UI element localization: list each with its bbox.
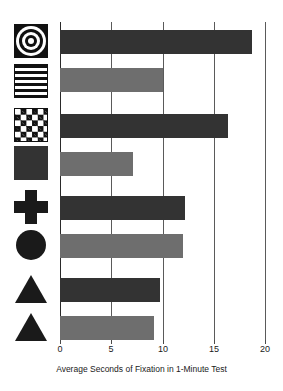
checkerboard-icon: [14, 108, 48, 142]
solid-square-icon: [14, 146, 48, 180]
stimulus-icon-column: [0, 0, 60, 391]
bar-circle: [60, 234, 183, 258]
tick-label-0: 0: [48, 344, 72, 354]
bar-checkerboard: [60, 114, 228, 138]
tick-label-10: 10: [151, 344, 175, 354]
bar-horizontal-stripes: [60, 68, 163, 92]
bar-cross: [60, 196, 185, 220]
fixation-bar-chart: 0 5 10 15 20 Average Seconds of Fixation…: [0, 0, 283, 391]
cross-icon: [14, 190, 48, 224]
bar-bullseye: [60, 30, 252, 54]
gridline-20: [265, 22, 266, 340]
circle-icon: [14, 228, 48, 262]
bar-triangle-dark: [60, 278, 160, 302]
tick-label-20: 20: [253, 344, 277, 354]
bullseye-icon: [14, 24, 48, 58]
plot-area: [60, 22, 266, 340]
bar-solid-square: [60, 152, 133, 176]
triangle-icon-light: [14, 310, 48, 344]
gridline-15: [214, 22, 215, 340]
triangle-icon-dark: [14, 272, 48, 306]
x-axis-title: Average Seconds of Fixation in 1-Minute …: [0, 364, 283, 375]
gridline-10: [163, 22, 164, 340]
bar-triangle-light: [60, 316, 154, 340]
tick-label-5: 5: [99, 344, 123, 354]
tick-label-15: 15: [202, 344, 226, 354]
horizontal-stripes-icon: [14, 64, 48, 98]
